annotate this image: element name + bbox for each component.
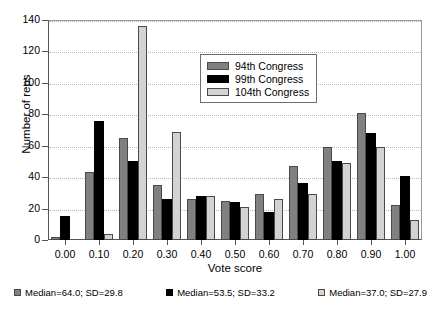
y-axis-tick-label: 100	[22, 76, 40, 88]
chart-legend: 94th Congress99th Congress104th Congress	[200, 54, 317, 103]
x-axis-tick-mark	[371, 240, 372, 245]
y-axis-tick-label: 80	[28, 107, 40, 119]
x-axis-tick-mark	[99, 240, 100, 245]
bar[interactable]	[366, 133, 376, 240]
bar[interactable]	[128, 161, 138, 240]
legend-item-label: 99th Congress	[235, 73, 303, 85]
bar-group	[116, 20, 150, 240]
x-axis-tick-mark	[65, 240, 66, 245]
bar[interactable]	[172, 132, 182, 240]
bar[interactable]	[153, 185, 163, 240]
bar-group	[48, 20, 82, 240]
bar-group	[252, 20, 286, 240]
bar[interactable]	[119, 138, 129, 240]
x-axis-tick-label: 0.30	[150, 248, 184, 260]
bar[interactable]	[298, 183, 308, 240]
bar-group	[82, 20, 116, 240]
x-axis-tick-mark	[405, 240, 406, 245]
y-axis-tick-label: 60	[28, 139, 40, 151]
x-axis-tick-label: 0.80	[320, 248, 354, 260]
bar-group	[320, 20, 354, 240]
bar[interactable]	[255, 194, 265, 240]
bar[interactable]	[410, 220, 420, 240]
x-axis-tick-mark	[167, 240, 168, 245]
footer-stat-item: Median=64.0; SD=29.8	[14, 287, 123, 298]
bar-group	[286, 20, 320, 240]
y-axis-tick-label: 20	[28, 202, 40, 214]
y-axis-tick-label: 140	[22, 13, 40, 25]
x-axis-tick: 0.20	[116, 240, 150, 262]
x-axis-tick: 0.30	[150, 240, 184, 262]
bar[interactable]	[60, 216, 70, 240]
x-axis-tick-label: 0.40	[184, 248, 218, 260]
x-axis-tick-mark	[269, 240, 270, 245]
chart-figure: Number of reps 020406080100120140 0.000.…	[0, 0, 441, 310]
bar[interactable]	[400, 176, 410, 240]
bar[interactable]	[206, 196, 216, 240]
x-axis-tick: 0.70	[286, 240, 320, 262]
bar[interactable]	[289, 166, 299, 240]
x-axis-tick: 0.90	[354, 240, 388, 262]
x-axis-tick-label: 0.50	[218, 248, 252, 260]
legend-swatch	[207, 88, 229, 96]
bar-group	[184, 20, 218, 240]
x-axis-tick: 0.60	[252, 240, 286, 262]
legend-swatch	[207, 62, 229, 70]
bar[interactable]	[308, 194, 318, 240]
footer-stats: Median=64.0; SD=29.8Median=53.5; SD=33.2…	[14, 287, 427, 298]
legend-item[interactable]: 104th Congress	[207, 85, 309, 98]
x-axis-tick-label: 0.20	[116, 248, 150, 260]
bar[interactable]	[357, 113, 367, 240]
bar[interactable]	[240, 207, 250, 240]
x-axis-tick: 0.80	[320, 240, 354, 262]
x-axis-tick-mark	[201, 240, 202, 245]
footer-stat-label: Median=37.0; SD=27.9	[329, 287, 427, 298]
bar[interactable]	[187, 199, 197, 240]
bar[interactable]	[138, 26, 148, 240]
bar[interactable]	[391, 205, 401, 240]
bar[interactable]	[274, 199, 284, 240]
footer-stat-swatch	[14, 289, 21, 296]
y-axis-tick-label: 0	[34, 233, 40, 245]
bar[interactable]	[94, 121, 104, 240]
x-axis-tick-mark	[235, 240, 236, 245]
x-axis-tick-label: 0.00	[48, 248, 82, 260]
y-axis-tick-label: 120	[22, 44, 40, 56]
bar[interactable]	[221, 201, 231, 240]
bar[interactable]	[342, 163, 352, 240]
bar-group	[388, 20, 422, 240]
x-axis-tick-mark	[337, 240, 338, 245]
bar[interactable]	[196, 196, 206, 240]
footer-stat-item: Median=37.0; SD=27.9	[318, 287, 427, 298]
legend-item-label: 104th Congress	[235, 86, 309, 98]
bar-group	[150, 20, 184, 240]
y-axis-ticks: 020406080100120140	[0, 20, 48, 240]
bar[interactable]	[85, 172, 95, 240]
x-axis-tick-label: 1.00	[388, 248, 422, 260]
bar[interactable]	[230, 202, 240, 240]
bar-series-layer	[48, 20, 422, 240]
x-axis-tick: 0.00	[48, 240, 82, 262]
legend-swatch	[207, 75, 229, 83]
bar[interactable]	[162, 199, 172, 240]
footer-stat-item: Median=53.5; SD=33.2	[166, 287, 275, 298]
x-axis-tick-mark	[133, 240, 134, 245]
x-axis-tick: 0.10	[82, 240, 116, 262]
legend-item-label: 94th Congress	[235, 60, 303, 72]
footer-stat-swatch	[166, 289, 173, 296]
bar[interactable]	[264, 212, 274, 240]
x-axis-tick: 0.40	[184, 240, 218, 262]
legend-item[interactable]: 99th Congress	[207, 72, 309, 85]
bar-group	[218, 20, 252, 240]
x-axis-tick-mark	[303, 240, 304, 245]
x-axis-title: Vote score	[48, 262, 422, 274]
x-axis-ticks: 0.000.100.200.300.400.500.600.700.800.90…	[48, 240, 422, 262]
x-axis-tick: 0.50	[218, 240, 252, 262]
bar-group	[354, 20, 388, 240]
bar[interactable]	[323, 147, 333, 240]
footer-stat-label: Median=64.0; SD=29.8	[25, 287, 123, 298]
legend-item[interactable]: 94th Congress	[207, 59, 309, 72]
bar[interactable]	[332, 161, 342, 240]
x-axis-tick: 1.00	[388, 240, 422, 262]
bar[interactable]	[376, 147, 386, 240]
